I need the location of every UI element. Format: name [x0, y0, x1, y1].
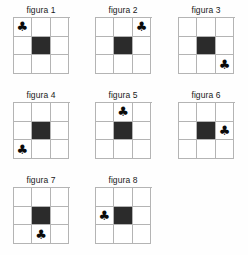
matrix-cell-r1c3: ♣ [133, 18, 152, 37]
matrix-cell-r2c3: ♣ [216, 122, 235, 141]
matrix-cell-r2c3 [51, 207, 70, 226]
matrix-cell-r1c3 [51, 18, 70, 37]
club-suit-icon [179, 140, 197, 158]
club-suit-icon [179, 103, 197, 121]
club-suit-icon [32, 188, 50, 206]
club-suit-icon [114, 55, 132, 73]
figure-caption: figura 6 [191, 90, 220, 100]
club-suit-icon [32, 140, 50, 158]
club-suit-icon [51, 103, 69, 121]
matrix-cell-r1c2 [114, 188, 133, 207]
club-suit-icon: ♣ [216, 55, 234, 73]
club-suit-icon [96, 55, 114, 73]
club-suit-icon [51, 188, 69, 206]
club-suit-icon [114, 140, 132, 158]
matrix-cell-r1c2 [114, 18, 133, 37]
matrix-cell-r3c3 [133, 225, 152, 244]
club-suit-icon [32, 207, 50, 225]
figure-item-2: figura 2 ♣ [82, 0, 164, 85]
matrix-cell-r3c2 [114, 55, 133, 74]
matrix-cell-r3c1 [96, 55, 115, 74]
club-suit-icon [14, 207, 32, 225]
club-suit-icon [197, 122, 215, 140]
matrix-cell-r3c3 [51, 225, 70, 244]
matrix-cell-r1c2 [197, 103, 216, 122]
matrix-cell-r1c1 [14, 103, 33, 122]
club-suit-icon [197, 140, 215, 158]
matrix-cell-r2c2 [32, 122, 51, 141]
matrix-cell-r1c1: ♣ [14, 18, 33, 37]
matrix-cell-r3c2 [197, 55, 216, 74]
club-suit-icon [32, 37, 50, 55]
club-suit-icon [51, 140, 69, 158]
matrix-cell-r1c1 [96, 188, 115, 207]
club-suit-icon [179, 18, 197, 36]
figure-caption: figura 8 [108, 175, 137, 185]
matrix-cell-r1c3 [133, 103, 152, 122]
matrix-cell-r1c2 [32, 18, 51, 37]
matrix-cell-r1c1 [96, 18, 115, 37]
club-suit-icon: ♣ [32, 225, 50, 243]
matrix-cell-r3c3 [51, 140, 70, 159]
club-suit-icon [216, 18, 234, 36]
club-suit-icon [133, 122, 151, 140]
figure-item-3: figura 3 ♣ [164, 0, 248, 85]
figure-matrix: ♣ [13, 102, 70, 159]
matrix-cell-r2c3 [51, 37, 70, 56]
matrix-cell-r1c2 [197, 18, 216, 37]
figure-sheet: figura 1 ♣ figura 2 ♣ [0, 0, 248, 255]
matrix-cell-r2c3 [51, 122, 70, 141]
matrix-cell-r2c1: ♣ [96, 207, 115, 226]
club-suit-icon [32, 55, 50, 73]
club-suit-icon: ♣ [14, 18, 32, 36]
club-suit-icon [179, 55, 197, 73]
club-suit-icon [51, 225, 69, 243]
matrix-cell-r1c3 [216, 18, 235, 37]
matrix-cell-r1c1 [179, 18, 198, 37]
matrix-cell-r1c3 [51, 188, 70, 207]
matrix-cell-r1c2 [32, 188, 51, 207]
figure-caption: figura 7 [26, 175, 55, 185]
club-suit-icon [14, 122, 32, 140]
figure-caption: figura 3 [191, 5, 220, 15]
club-suit-icon [216, 140, 234, 158]
figure-matrix: ♣ [95, 187, 152, 244]
matrix-cell-r2c2 [32, 37, 51, 56]
matrix-cell-r3c1 [14, 55, 33, 74]
club-suit-icon [133, 207, 151, 225]
matrix-cell-r2c2 [114, 122, 133, 141]
matrix-cell-r2c1 [96, 122, 115, 141]
matrix-cell-r3c3 [51, 55, 70, 74]
matrix-cell-r2c3 [133, 122, 152, 141]
figure-item-7: figura 7 ♣ [0, 170, 82, 255]
matrix-cell-r2c1 [179, 122, 198, 141]
club-suit-icon [133, 55, 151, 73]
club-suit-icon [32, 122, 50, 140]
club-suit-icon [133, 140, 151, 158]
club-suit-icon [14, 225, 32, 243]
matrix-cell-r3c2 [32, 140, 51, 159]
club-suit-icon [14, 188, 32, 206]
club-suit-icon [114, 18, 132, 36]
matrix-cell-r1c3 [51, 103, 70, 122]
matrix-cell-r2c1 [14, 37, 33, 56]
club-suit-icon [216, 37, 234, 55]
matrix-cell-r3c1: ♣ [14, 140, 33, 159]
club-suit-icon [133, 225, 151, 243]
club-suit-icon [14, 103, 32, 121]
club-suit-icon: ♣ [133, 18, 151, 36]
matrix-cell-r3c3: ♣ [216, 55, 235, 74]
matrix-cell-r1c1 [96, 103, 115, 122]
club-suit-icon [32, 18, 50, 36]
club-suit-icon [114, 122, 132, 140]
club-suit-icon [51, 207, 69, 225]
club-suit-icon [51, 55, 69, 73]
figure-item-1: figura 1 ♣ [0, 0, 82, 85]
matrix-cell-r2c2 [197, 122, 216, 141]
matrix-cell-r3c1 [96, 225, 115, 244]
figure-item-4: figura 4 ♣ [0, 85, 82, 170]
club-suit-icon [133, 188, 151, 206]
figure-matrix: ♣ [95, 102, 152, 159]
figure-matrix: ♣ [178, 102, 235, 159]
figure-matrix: ♣ [95, 17, 152, 74]
